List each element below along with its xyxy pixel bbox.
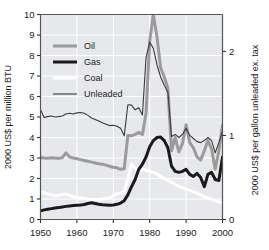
y-tick-label: 5 [29,111,34,122]
legend-label-unleaded: Unleaded [84,89,123,99]
y-tick-label: 10 [24,9,35,20]
y-tick-label-right: 0 [229,214,234,225]
legend-label-oil: Oil [84,41,95,51]
energy-price-chart: 195019601970198019902000 012345678910 01… [0,0,269,250]
y-tick-label-right: 1 [229,130,234,141]
y-axis-left-title: 2000 US$ per million BTU [3,65,13,169]
x-tick-label: 1950 [30,227,51,238]
legend-label-coal: Coal [84,73,103,83]
y-axis-right-title: 2000 US$ per gallon unleaded ex. tax [250,44,260,195]
y-tick-label-right: 2 [229,46,234,57]
x-tick-label: 1970 [103,227,124,238]
x-tick-label: 1960 [66,227,87,238]
x-tick-label: 1980 [139,227,160,238]
y-tick-label: 7 [29,70,34,81]
y-tick-label: 9 [29,29,34,40]
x-tick-label: 2000 [212,227,233,238]
x-tick-label: 1990 [176,227,197,238]
y-tick-label: 0 [29,214,34,225]
y-tick-label: 3 [29,152,34,163]
y-tick-label: 2 [29,173,34,184]
legend-label-gas: Gas [84,57,101,67]
y-tick-label: 1 [29,193,34,204]
y-tick-label: 6 [29,91,34,102]
chart-canvas: 195019601970198019902000 012345678910 01… [0,0,269,250]
y-tick-label: 8 [29,50,34,61]
y-tick-label: 4 [29,132,34,143]
